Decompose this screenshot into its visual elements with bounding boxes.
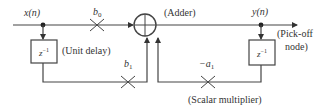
filter-block-diagram: z−1 z−1 x(n) y(n) (Adder) (Unit delay) (… xyxy=(0,0,328,111)
unit-delay-label: (Unit delay) xyxy=(62,45,111,57)
input-delay-block: z−1 xyxy=(31,40,57,63)
input-label: x(n) xyxy=(23,7,41,19)
output-label: y(n) xyxy=(251,6,269,18)
b0-label: b0 xyxy=(93,6,102,19)
output-delay-block: z−1 xyxy=(249,40,275,65)
pickoff-label-line1: (Pick-off xyxy=(277,28,314,40)
pickoff-label-line2: node) xyxy=(285,41,308,53)
b1-label: b1 xyxy=(124,58,133,71)
adder-label: (Adder) xyxy=(164,7,196,19)
neg-a1-label: −a1 xyxy=(199,58,215,71)
scalar-multiplier-label: (Scalar multiplier) xyxy=(188,94,262,106)
adder-node xyxy=(134,14,156,36)
